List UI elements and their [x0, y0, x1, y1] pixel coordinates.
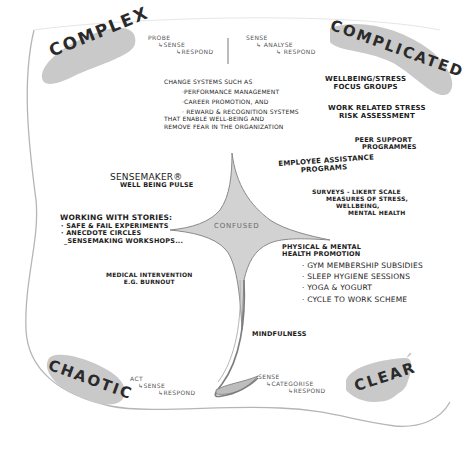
domain-label-confused: CONFUSED [214, 222, 259, 230]
risk-assessment-note: WORK RELATED STRESS RISK ASSESSMENT [328, 104, 426, 120]
working-with-stories-note: WORKING WITH STORIES: · SAFE & FAIL EXPE… [60, 214, 183, 245]
mindfulness-note: MINDFULNESS [252, 331, 307, 338]
approach-complex: PROBE ↳SENSE ↳RESPOND [148, 35, 213, 56]
approach-complicated: SENSE ↳ ANALYSE ↳ RESPOND [246, 35, 316, 56]
cynefin-diagram: COMPLEX COMPLICATED CHAOTIC CLEAR CONFUS… [0, 0, 466, 454]
sensemaker-note: SENSEMAKER® WELL BEING PULSE [110, 172, 194, 190]
surveys-note: SURVEYS - LIKERT SCALE MEASURES OF STRES… [312, 189, 408, 217]
focus-groups-note: WELLBEING/STRESS FOCUS GROUPS [325, 75, 406, 91]
medical-intervention-note: MEDICAL INTERVENTION E.G. BURNOUT [106, 272, 193, 286]
approach-chaotic: ACT ↳SENSE ↳RESPOND [130, 376, 195, 397]
peer-support-note: PEER SUPPORT PROGRAMMES [350, 137, 417, 152]
health-promotion-note: PHYSICAL & MENTAL HEALTH PROMOTION · GYM… [282, 244, 423, 304]
approach-clear: SENSE ↳CATEGORISE ↳RESPOND [258, 374, 325, 395]
change-systems-note: CHANGE SYSTEMS SUCH AS ·PERFORMANCE MANA… [164, 79, 299, 131]
